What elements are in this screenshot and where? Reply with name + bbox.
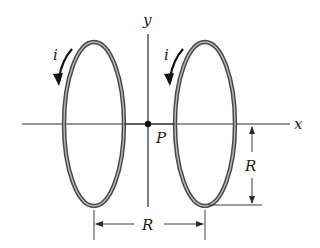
point-p-dot (145, 121, 151, 127)
radius-label: R (244, 157, 256, 175)
left-current-label: i (53, 46, 58, 64)
helmholtz-coil-diagram: x y P i i R R (0, 0, 320, 248)
point-p-label: P (155, 129, 167, 147)
y-axis-label: y (142, 11, 152, 29)
separation-label: R (141, 216, 153, 234)
right-current-label: i (164, 46, 169, 64)
x-axis-label: x (294, 115, 303, 133)
